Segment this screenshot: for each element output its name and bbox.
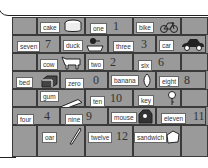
word-label: two — [88, 59, 104, 70]
brick-two: two 2 — [85, 53, 133, 71]
word-label: car — [159, 40, 174, 51]
duck-icon — [85, 37, 105, 52]
answer-box-frame — [0, 0, 208, 16]
cow-icon — [60, 55, 84, 70]
brick-banana: banana — [108, 71, 156, 89]
brick-bed: bed — [12, 71, 60, 89]
numeral: 11 — [193, 109, 205, 124]
car-icon — [181, 37, 205, 52]
word-label: bike — [136, 22, 154, 33]
numeral: 0 — [93, 73, 99, 88]
word-label: four — [17, 114, 34, 125]
brick-cow: cow — [37, 53, 85, 71]
word-label: cow — [40, 59, 58, 70]
word-label: six — [138, 60, 152, 71]
brick-nine: nine 9 — [60, 107, 108, 125]
word-label: eleven — [161, 113, 186, 124]
numeral: 12 — [116, 129, 128, 144]
word-label: sandwich — [134, 132, 167, 143]
mouse-icon — [137, 109, 153, 124]
numeral: 7 — [45, 37, 51, 52]
brick-eleven: eleven 11 — [156, 107, 206, 125]
word-label: twelve — [88, 132, 112, 143]
empty-brick — [181, 53, 208, 71]
word-label: banana — [111, 75, 139, 86]
oar-icon — [68, 127, 82, 145]
brick-one: one 1 — [85, 17, 133, 35]
brick-duck: duck — [60, 35, 108, 53]
empty-brick — [181, 125, 208, 157]
word-label: oar — [42, 132, 57, 143]
numeral: 9 — [86, 109, 92, 124]
brick-oar: oar — [37, 125, 85, 157]
numeral: 1 — [113, 19, 119, 34]
brick-mouse: mouse — [108, 107, 156, 125]
numeral: 2 — [110, 55, 116, 70]
brick-cake: cake — [37, 17, 85, 35]
numeral: 3 — [141, 37, 147, 52]
brick-car: car — [156, 35, 206, 53]
numeral: 6 — [158, 55, 164, 70]
empty-brick — [181, 17, 208, 35]
word-label: key — [138, 95, 154, 106]
brick-four: four 4 — [12, 107, 60, 125]
brick-six: six 6 — [133, 53, 181, 71]
empty-brick — [12, 17, 37, 35]
brick-sandwich: sandwich — [133, 125, 181, 157]
banana-icon — [141, 73, 153, 88]
grid-row: four 4 nine 9 mouse eleven 11 — [12, 107, 208, 125]
grid-row: seven 7 duck three 3 car — [12, 35, 208, 53]
word-label: cake — [40, 22, 60, 33]
word-label: duck — [63, 40, 83, 51]
word-label: nine — [65, 114, 83, 125]
brick-seven: seven 7 — [12, 35, 60, 53]
word-label: bed — [16, 77, 33, 88]
word-label: one — [90, 23, 107, 34]
empty-brick — [181, 89, 208, 107]
bike-icon — [160, 19, 178, 34]
brick-ten: ten 10 — [85, 89, 133, 107]
page-edge-line — [0, 157, 16, 158]
word-label: mouse — [111, 112, 137, 123]
brick-key: key — [133, 89, 181, 107]
grid-row: cow two 2 six 6 — [12, 53, 208, 71]
key-icon — [167, 91, 177, 106]
word-label: gum — [40, 91, 59, 102]
word-label: eight — [159, 76, 179, 87]
empty-brick — [12, 89, 37, 107]
empty-brick — [12, 125, 37, 157]
cake-icon — [64, 19, 82, 34]
numeral: 4 — [44, 109, 50, 124]
brick-twelve: twelve 12 — [85, 125, 133, 157]
grid-row: bed zero 0 banana eight 8 — [12, 71, 208, 89]
grid-row: oar twelve 12 sandwich — [12, 125, 208, 157]
word-label: three — [113, 41, 134, 52]
bed-icon — [41, 73, 59, 88]
brick-zero: zero 0 — [60, 71, 108, 89]
brick-three: three 3 — [108, 35, 156, 53]
numeral: 10 — [110, 91, 122, 106]
word-label: ten — [90, 96, 105, 107]
brick-bike: bike — [133, 17, 181, 35]
word-label: seven — [17, 41, 40, 52]
grid-row: cake one 1 bike — [12, 17, 208, 35]
grid-row: gum ten 10 key — [12, 89, 208, 107]
numeral: 8 — [184, 73, 190, 88]
brick-gum: gum — [37, 89, 85, 107]
brick-eight: eight 8 — [156, 71, 206, 89]
word-label: zero — [65, 78, 84, 89]
brick-grid: cake one 1 bike seven 7 duck three 3 car — [12, 17, 208, 157]
empty-brick — [12, 53, 37, 71]
sandwich-icon — [166, 130, 180, 145]
